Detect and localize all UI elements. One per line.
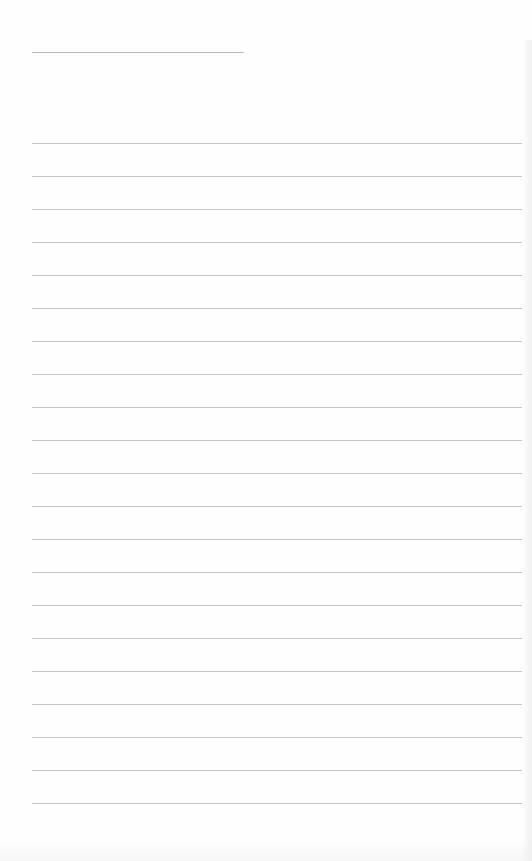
ruled-line [32,737,522,738]
ruled-line [32,704,522,705]
title-line [32,52,244,53]
ruled-line [32,143,522,144]
ruled-line [32,539,522,540]
ruled-line [32,572,522,573]
ruled-line [32,440,522,441]
ruled-line [32,374,522,375]
ruled-line [32,638,522,639]
ruled-line [32,605,522,606]
ruled-line [32,407,522,408]
ruled-line [32,242,522,243]
ruled-line [32,341,522,342]
ruled-line [32,473,522,474]
page-edge-shadow [522,40,532,861]
lined-paper-page [0,0,532,861]
ruled-line [32,308,522,309]
ruled-line [32,176,522,177]
ruled-line [32,770,522,771]
ruled-line [32,209,522,210]
ruled-line [32,506,522,507]
page-bottom-shadow [0,841,532,861]
ruled-line [32,275,522,276]
ruled-line [32,803,522,804]
ruled-line [32,671,522,672]
